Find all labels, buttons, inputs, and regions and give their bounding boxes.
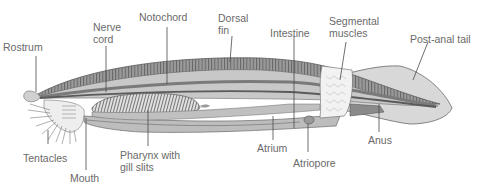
rostrum-shape — [24, 91, 40, 102]
segmental-muscle-block — [320, 66, 353, 118]
label-mouth: Mouth — [70, 172, 99, 184]
label-pharynx: Pharynx with gill slits — [120, 149, 180, 173]
label-anus: Anus — [368, 134, 392, 146]
label-atriopore: Atriopore — [293, 157, 336, 169]
label-atrium: Atrium — [257, 142, 287, 154]
label-segmental-muscles: Segmental muscles — [329, 15, 379, 39]
label-rostrum: Rostrum — [3, 41, 43, 53]
atriopore-shape — [304, 116, 314, 124]
label-intestine: Intestine — [270, 27, 310, 39]
label-nerve-cord: Nerve cord — [93, 21, 121, 45]
label-dorsal-fin: Dorsal fin — [218, 12, 248, 36]
label-tentacles: Tentacles — [23, 152, 67, 164]
label-post-anal-tail: Post-anal tail — [410, 33, 471, 45]
label-notochord: Notochord — [139, 11, 187, 23]
